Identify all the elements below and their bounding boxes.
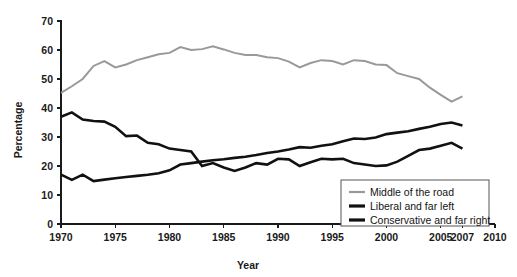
x-tick-label: 2007 <box>451 231 475 243</box>
x-tick-label: 1985 <box>212 231 236 243</box>
y-tick-label: 30 <box>41 131 53 143</box>
data-series-group <box>61 46 462 181</box>
y-axis-tick-labels: 010203040506070 <box>41 15 53 230</box>
legend-label: Liberal and far left <box>370 200 454 212</box>
series-line <box>61 46 462 101</box>
chart-legend: Middle of the roadLiberal and far leftCo… <box>341 180 490 226</box>
y-tick-label: 40 <box>41 102 53 114</box>
legend-label: Conservative and far right <box>370 214 490 226</box>
line-chart: 010203040506070 197019751980198519901995… <box>0 0 517 277</box>
x-tick-label: 2000 <box>375 231 399 243</box>
y-tick-label: 50 <box>41 73 53 85</box>
series-line <box>61 112 462 171</box>
y-tick-label: 0 <box>47 218 53 230</box>
x-tick-label: 1980 <box>158 231 182 243</box>
x-tick-label: 1990 <box>266 231 290 243</box>
x-tick-label: 1970 <box>49 231 73 243</box>
x-tick-label: 1975 <box>104 231 128 243</box>
y-tick-label: 70 <box>41 15 53 27</box>
y-tick-label: 20 <box>41 160 53 172</box>
x-axis-tick-labels: 1970197519801985199019952000200520072010 <box>49 231 507 243</box>
y-tick-label: 10 <box>41 189 53 201</box>
y-axis-title: Percentage <box>12 102 24 159</box>
x-tick-label: 2010 <box>483 231 507 243</box>
x-tick-label: 2005 <box>429 231 453 243</box>
legend-label: Middle of the road <box>370 186 454 198</box>
chart-container: 010203040506070 197019751980198519901995… <box>0 0 517 277</box>
x-axis-title: Year <box>237 259 259 271</box>
y-tick-label: 60 <box>41 44 53 56</box>
x-tick-label: 1995 <box>321 231 345 243</box>
